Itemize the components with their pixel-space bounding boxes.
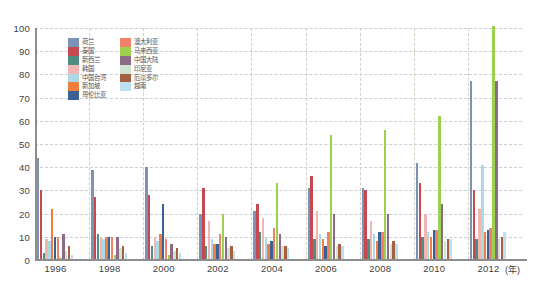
bar (495, 81, 497, 260)
legend-swatch (68, 47, 79, 56)
y-axis-labels: 0102030405060708090100 (0, 28, 30, 260)
bar-group (199, 28, 235, 260)
legend-item: 澳大利亚 (120, 38, 158, 47)
x-axis-tick-label: 2006 (315, 263, 337, 274)
x-axis-tick-label: 2002 (207, 263, 229, 274)
gridline-vertical (414, 28, 415, 260)
y-axis-tick-label: 70 (0, 92, 30, 103)
x-axis-unit-label: (年) (505, 263, 520, 276)
legend-label: 澳大利亚 (134, 38, 158, 47)
legend-label: 泰国 (82, 47, 94, 56)
y-axis-tick-label: 0 (0, 255, 30, 266)
legend-swatch (120, 65, 131, 74)
legend-swatch (68, 65, 79, 74)
gridline-vertical (306, 28, 307, 260)
bar-group (470, 28, 506, 260)
x-axis-tick-label: 1998 (99, 263, 121, 274)
legend-label: 马来西亚 (134, 47, 158, 56)
gridline-vertical (197, 28, 198, 260)
legend-label: 韩国 (82, 65, 94, 74)
x-axis-tick-label: 2012 (477, 263, 499, 274)
x-axis-tick-label: 1996 (45, 263, 67, 274)
y-axis-tick-label: 20 (0, 208, 30, 219)
legend-label: 印尼亚 (134, 65, 152, 74)
legend-item: 印尼亚 (120, 65, 158, 74)
legend-swatch (120, 74, 131, 83)
legend-item: 新西兰 (68, 56, 106, 65)
legend-item: 越南 (120, 82, 158, 91)
legend-label: 越南 (134, 82, 146, 91)
bar (503, 232, 505, 260)
bar (40, 190, 42, 260)
legend-column-left: 荷兰泰国新西兰韩国中国台湾新加坡哥伦比亚 (68, 38, 106, 100)
y-axis-tick-label: 40 (0, 162, 30, 173)
gridline-vertical (468, 28, 469, 260)
x-axis-labels: 199619982000200220042006200820102012 (35, 263, 522, 283)
bar-group (308, 28, 344, 260)
y-axis-tick-label: 10 (0, 231, 30, 242)
bar (449, 239, 451, 260)
legend-item: 新加坡 (68, 82, 106, 91)
legend-item: 荷兰 (68, 38, 106, 47)
legend-swatch (68, 91, 79, 100)
bar-group (416, 28, 452, 260)
legend-swatch (120, 47, 131, 56)
bar-group (362, 28, 398, 260)
y-axis-tick-label: 90 (0, 46, 30, 57)
bar-group (253, 28, 289, 260)
legend-label: 哥伦比亚 (82, 91, 106, 100)
x-axis-tick-label: 2004 (261, 263, 283, 274)
legend-swatch (68, 38, 79, 47)
x-axis-tick-label: 2010 (423, 263, 445, 274)
y-axis-line (35, 28, 37, 260)
legend-column-right: 澳大利亚马来西亚中国大陆印尼亚厄瓜多尔越南 (120, 38, 158, 100)
x-axis-tick-label: 2000 (153, 263, 175, 274)
y-axis-tick-label: 100 (0, 23, 30, 34)
y-axis-tick-label: 30 (0, 185, 30, 196)
gridline-vertical (251, 28, 252, 260)
bar-chart: 0102030405060708090100 19961998200020022… (0, 0, 538, 303)
chart-legend: 荷兰泰国新西兰韩国中国台湾新加坡哥伦比亚 澳大利亚马来西亚中国大陆印尼亚厄瓜多尔… (68, 38, 158, 100)
legend-swatch (68, 56, 79, 65)
x-axis-tick-label: 2008 (369, 263, 391, 274)
bar (57, 237, 59, 260)
x-axis-line (35, 259, 527, 261)
gridline-vertical (360, 28, 361, 260)
legend-item: 泰国 (68, 47, 106, 56)
legend-swatch (120, 56, 131, 65)
legend-item: 韩国 (68, 65, 106, 74)
legend-label: 荷兰 (82, 38, 94, 47)
legend-swatch (120, 38, 131, 47)
y-axis-tick-label: 80 (0, 69, 30, 80)
legend-item: 哥伦比亚 (68, 91, 106, 100)
legend-swatch (68, 74, 79, 83)
legend-label: 新西兰 (82, 56, 100, 65)
legend-swatch (120, 82, 131, 91)
legend-item: 马来西亚 (120, 47, 158, 56)
bar (395, 244, 397, 260)
bar (341, 246, 343, 260)
y-axis-tick-label: 60 (0, 115, 30, 126)
legend-item: 中国大陆 (120, 56, 158, 65)
legend-swatch (68, 82, 79, 91)
legend-label: 中国大陆 (134, 56, 158, 65)
y-axis-tick-label: 50 (0, 139, 30, 150)
